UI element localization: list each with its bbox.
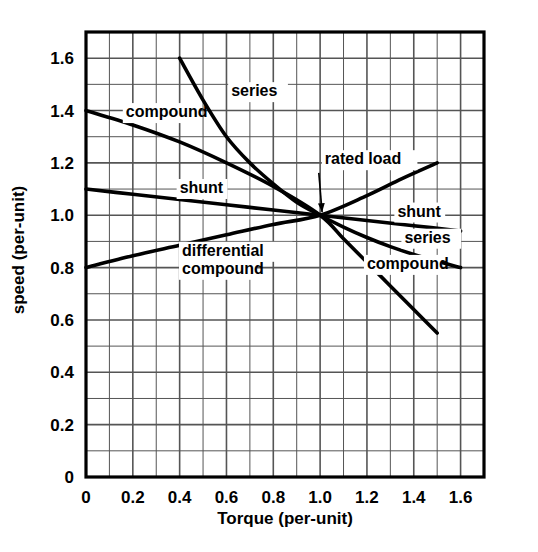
chart-canvas: 00.20.40.60.81.01.21.41.6 00.20.40.60.81…: [0, 0, 538, 552]
label-compound-right: compound: [364, 255, 449, 275]
x-tick-0.6: 0.6: [215, 488, 239, 507]
y-tick-1.2: 1.2: [50, 154, 74, 173]
x-tick-labels: 00.20.40.60.81.01.21.41.6: [81, 488, 472, 507]
label-shunt-right: shunt: [394, 203, 445, 223]
y-tick-1.4: 1.4: [50, 102, 74, 121]
y-tick-0: 0: [65, 468, 74, 487]
x-tick-0.8: 0.8: [261, 488, 285, 507]
label-rated-load-text: rated load: [325, 150, 401, 167]
y-axis-title: speed (per-unit): [9, 186, 28, 314]
label-shunt-right-text: shunt: [397, 203, 441, 220]
y-tick-0.8: 0.8: [50, 259, 74, 278]
y-tick-labels: 00.20.40.60.81.01.21.41.6: [50, 49, 74, 487]
label-differential-compound-text: differential: [182, 242, 264, 259]
y-tick-0.2: 0.2: [50, 416, 74, 435]
y-tick-1.6: 1.6: [50, 49, 74, 68]
y-tick-0.6: 0.6: [50, 311, 74, 330]
label-series-left-text: series: [231, 82, 277, 99]
label-shunt-left: shunt: [177, 179, 228, 199]
y-tick-1.0: 1.0: [50, 206, 74, 225]
speed-torque-chart: 00.20.40.60.81.01.21.41.6 00.20.40.60.81…: [0, 0, 538, 552]
label-compound-right-text: compound: [367, 255, 449, 272]
label-differential-compound-text: compound: [182, 260, 264, 277]
x-tick-1.2: 1.2: [355, 488, 379, 507]
label-series-right: series: [401, 229, 461, 249]
x-tick-0.4: 0.4: [168, 488, 192, 507]
x-tick-0.2: 0.2: [121, 488, 145, 507]
label-compound-left: compound: [123, 103, 208, 123]
label-rated-load: rated load: [322, 150, 418, 170]
x-tick-0: 0: [81, 488, 90, 507]
label-shunt-left-text: shunt: [180, 179, 224, 196]
x-tick-1.0: 1.0: [308, 488, 332, 507]
x-tick-1.4: 1.4: [402, 488, 426, 507]
x-axis-title: Torque (per-unit): [217, 509, 353, 528]
x-tick-1.6: 1.6: [449, 488, 473, 507]
label-compound-left-text: compound: [126, 103, 208, 120]
label-series-left: series: [228, 82, 288, 102]
label-series-right-text: series: [404, 229, 450, 246]
y-tick-0.4: 0.4: [50, 363, 74, 382]
